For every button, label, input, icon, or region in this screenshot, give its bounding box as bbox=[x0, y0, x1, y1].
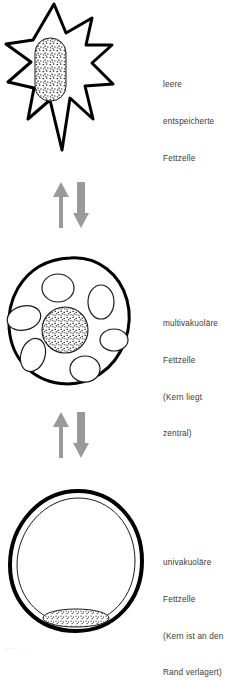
empty-fat-cell-drawing bbox=[0, 0, 150, 175]
panel-multivacuolar-fat-cell: multivakuoläre Fettzelle (Kern liegt zen… bbox=[0, 250, 234, 400]
arrow-group-bottom bbox=[52, 410, 96, 464]
label-line: entspeicherte bbox=[163, 116, 214, 128]
vacuole bbox=[70, 356, 100, 382]
label-line: Fettzelle bbox=[163, 153, 214, 165]
panel-univacuolar-fat-cell: univakuoläre Fettzelle (Kern ist an den … bbox=[0, 485, 234, 645]
label-line: multivakuoläre bbox=[163, 318, 218, 330]
arrow-down-icon bbox=[73, 182, 89, 228]
label-multivacuolar-fat-cell: multivakuoläre Fettzelle (Kern liegt zen… bbox=[163, 294, 218, 465]
label-line: zentral) bbox=[163, 428, 218, 440]
arrow-down-icon bbox=[73, 412, 89, 458]
vacuole bbox=[42, 274, 74, 302]
arrow-group-top bbox=[52, 180, 96, 234]
arrow-up-icon bbox=[53, 412, 69, 458]
label-line: (Kern ist an den bbox=[163, 631, 223, 643]
label-line: Rand verlagert) bbox=[163, 667, 223, 679]
vacuole bbox=[100, 329, 128, 351]
nucleus bbox=[35, 38, 66, 101]
nucleus bbox=[42, 307, 88, 353]
panel-empty-fat-cell: leere entspeicherte Fettzelle bbox=[0, 0, 234, 175]
label-line: (Kern liegt bbox=[163, 392, 218, 404]
bidirectional-arrows bbox=[52, 410, 96, 460]
multivacuolar-fat-cell-drawing bbox=[0, 250, 150, 400]
bidirectional-arrows bbox=[52, 180, 96, 230]
arrow-up-icon bbox=[53, 182, 69, 228]
nucleus bbox=[43, 609, 109, 627]
cropped-footer-text: ····· ·· bbox=[4, 645, 26, 652]
vacuole bbox=[88, 285, 114, 319]
univacuolar-fat-cell-drawing bbox=[0, 485, 155, 645]
label-line: univakuoläre bbox=[163, 557, 223, 569]
label-line: Fettzelle bbox=[163, 355, 218, 367]
label-line: leere bbox=[163, 79, 214, 91]
label-univacuolar-fat-cell: univakuoläre Fettzelle (Kern ist an den … bbox=[163, 533, 223, 681]
label-empty-fat-cell: leere entspeicherte Fettzelle bbox=[163, 55, 214, 189]
label-line: Fettzelle bbox=[163, 594, 223, 606]
